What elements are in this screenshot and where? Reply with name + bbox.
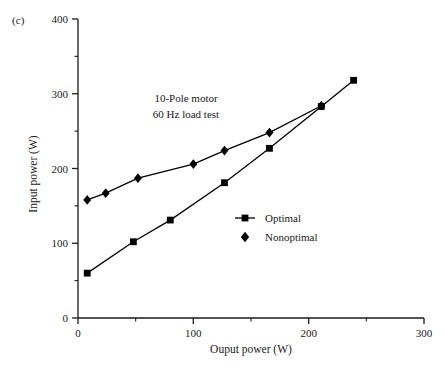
figure-container: (c) Input power (W) Ouput power (W) 0100… <box>0 0 447 367</box>
data-point-marker <box>221 146 229 156</box>
data-point-marker <box>241 232 249 242</box>
x-axis-tick-label: 200 <box>300 327 317 339</box>
data-point-marker <box>130 238 137 245</box>
data-point-marker <box>350 77 357 84</box>
chart-plot: 01002003004000100200300 10-Pole motor60 … <box>0 0 447 367</box>
legend-item-label: Optimal <box>265 212 301 224</box>
x-axis-tick-label: 100 <box>185 327 202 339</box>
annotation-line: 10-Pole motor <box>154 92 218 104</box>
y-axis-tick-label: 200 <box>52 163 69 175</box>
data-point-marker <box>167 217 174 224</box>
legend-item-label: Nonoptimal <box>265 231 318 243</box>
chart-legend: OptimalNonoptimal <box>235 212 318 243</box>
annotation-line: 60 Hz load test <box>153 108 219 120</box>
data-point-marker <box>102 188 110 198</box>
data-point-marker <box>221 179 228 186</box>
x-axis-tick-label: 0 <box>75 327 81 339</box>
axes: 01002003004000100200300 <box>52 13 433 339</box>
data-point-marker <box>265 128 273 138</box>
y-axis-tick-label: 300 <box>52 88 69 100</box>
data-point-marker <box>189 159 197 169</box>
chart-annotations: 10-Pole motor60 Hz load test <box>153 92 219 120</box>
y-axis-tick-label: 400 <box>52 13 69 25</box>
data-point-marker <box>134 173 142 183</box>
data-point-marker <box>83 195 91 205</box>
x-axis-tick-label: 300 <box>416 327 433 339</box>
data-point-marker <box>84 270 91 277</box>
y-axis-tick-label: 0 <box>63 312 69 324</box>
data-point-marker <box>242 215 249 222</box>
data-series <box>83 77 357 277</box>
y-axis-tick-label: 100 <box>52 237 69 249</box>
data-point-marker <box>266 145 273 152</box>
